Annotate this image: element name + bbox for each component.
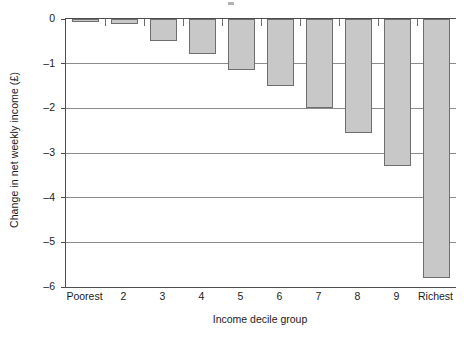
bar (384, 19, 411, 166)
x-tick-mark (261, 19, 262, 26)
x-tick-label: Poorest (66, 290, 102, 302)
x-tick-label: 9 (394, 290, 400, 302)
y-tick-label: 0 (49, 12, 55, 24)
bar (423, 19, 450, 278)
y-tick-label: –6 (43, 280, 55, 292)
y-tick-mark (61, 153, 66, 154)
x-tick-mark (417, 19, 418, 26)
x-tick-label: 6 (277, 290, 283, 302)
x-tick-mark (144, 19, 145, 26)
bar (189, 19, 216, 54)
bar (267, 19, 294, 86)
bar (306, 19, 333, 108)
x-tick-label: 7 (316, 290, 322, 302)
x-axis-tick-labels: Poorest23456789Richest (65, 290, 455, 306)
x-tick-label: Richest (418, 290, 453, 302)
bar (111, 19, 138, 24)
bar (150, 19, 177, 41)
x-tick-mark (183, 19, 184, 26)
y-tick-mark (61, 242, 66, 243)
y-tick-mark (61, 287, 66, 288)
y-tick-mark (61, 108, 66, 109)
y-axis-title: Change in net weekly income (£) (0, 0, 28, 300)
plot-area (65, 18, 456, 288)
scan-artifact-speck (228, 2, 234, 5)
y-tick-mark (61, 19, 66, 20)
x-tick-mark (222, 19, 223, 26)
y-tick-mark (61, 63, 66, 64)
y-axis-title-text: Change in net weekly income (£) (8, 72, 20, 228)
x-tick-label: 5 (238, 290, 244, 302)
gridline (66, 242, 456, 243)
y-tick-label: –3 (43, 146, 55, 158)
y-tick-mark (61, 197, 66, 198)
y-tick-label: –5 (43, 235, 55, 247)
bar (345, 19, 372, 133)
x-tick-mark (339, 19, 340, 26)
x-tick-label: 2 (121, 290, 127, 302)
y-tick-label: –4 (43, 191, 55, 203)
bar (228, 19, 255, 70)
x-tick-mark (378, 19, 379, 26)
x-tick-mark (105, 19, 106, 26)
x-tick-label: 4 (199, 290, 205, 302)
y-axis-tick-labels: 0–1–2–3–4–5–6 (28, 18, 61, 286)
x-tick-mark (300, 19, 301, 26)
y-tick-label: –1 (43, 57, 55, 69)
gridline (66, 197, 456, 198)
bar-chart-figure: Change in net weekly income (£) 0–1–2–3–… (0, 0, 464, 341)
x-axis-title: Income decile group (65, 313, 455, 325)
y-tick-label: –2 (43, 101, 55, 113)
x-tick-label: 8 (355, 290, 361, 302)
bar (72, 19, 99, 22)
x-tick-label: 3 (160, 290, 166, 302)
